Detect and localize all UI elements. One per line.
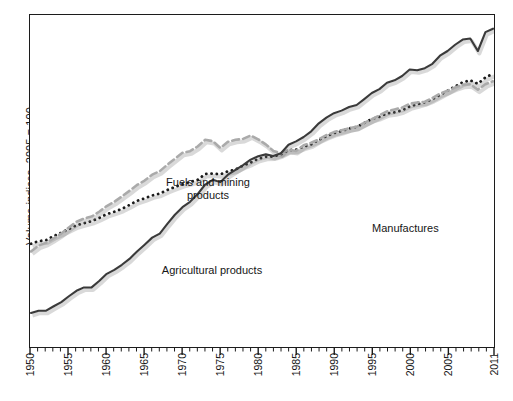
x-tick-label-1995: 1995 bbox=[366, 353, 378, 393]
x-tick-label-1965: 1965 bbox=[138, 353, 150, 393]
x-tick-label-1980: 1980 bbox=[252, 353, 264, 393]
x-tick-label-1975: 1975 bbox=[214, 353, 226, 393]
annotation-fuels-and-mining-products: Fuels and mining products bbox=[152, 176, 264, 201]
x-tick-label-1955: 1955 bbox=[62, 353, 74, 393]
trade-volume-line-chart: Volume indices, 2005 = 100 1950195519601… bbox=[0, 0, 513, 401]
x-tick-label-1990: 1990 bbox=[328, 353, 340, 393]
x-tick-label-1960: 1960 bbox=[100, 353, 112, 393]
x-tick-label-2000: 2000 bbox=[404, 353, 416, 393]
annotation-manufactures: Manufactures bbox=[372, 222, 472, 235]
x-axis-ticks bbox=[29, 347, 496, 356]
x-tick-label-2011: 2011 bbox=[488, 353, 500, 393]
x-tick-label-2005: 2005 bbox=[442, 353, 454, 393]
x-tick-label-1970: 1970 bbox=[176, 353, 188, 393]
x-tick-label-1950: 1950 bbox=[24, 353, 36, 393]
x-tick-label-1985: 1985 bbox=[290, 353, 302, 393]
annotation-agricultural-products: Agricultural products bbox=[137, 264, 287, 277]
